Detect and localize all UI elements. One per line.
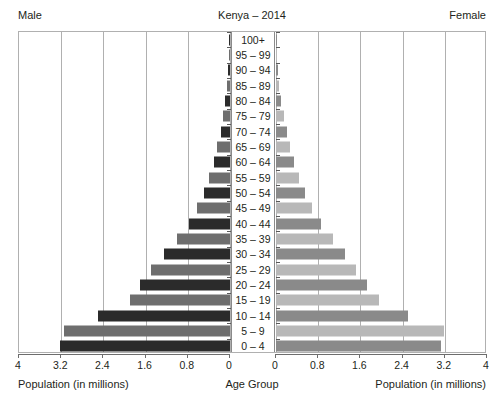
pyramid-row: 25 – 29 xyxy=(19,262,485,277)
bar-male xyxy=(140,279,230,290)
pyramid-row: 30 – 34 xyxy=(19,247,485,262)
age-group-label: 20 – 24 xyxy=(230,279,276,291)
row-tick-right xyxy=(276,185,280,186)
row-tick-right xyxy=(276,293,280,294)
pyramid-row: 90 – 94 xyxy=(19,63,485,78)
pyramid-row: 95 – 99 xyxy=(19,47,485,62)
row-tick-right xyxy=(276,32,280,33)
row-tick-right xyxy=(276,262,280,263)
row-tick-left xyxy=(227,231,231,232)
x-tick-label-left: 0.8 xyxy=(179,359,194,372)
bar-male xyxy=(223,111,230,122)
age-group-label: 90 – 94 xyxy=(230,64,276,76)
age-group-label: 40 – 44 xyxy=(230,218,276,230)
bar-female xyxy=(276,34,277,45)
row-tick-right xyxy=(276,124,280,125)
bar-male xyxy=(214,157,230,168)
pyramid-row: 0 – 4 xyxy=(19,339,485,354)
x-tick xyxy=(229,354,230,358)
age-group-label: 15 – 19 xyxy=(230,294,276,306)
chart-title: Kenya – 2014 xyxy=(0,8,504,22)
age-group-label: 60 – 64 xyxy=(230,156,276,168)
row-tick-left xyxy=(227,262,231,263)
bar-female xyxy=(276,126,287,137)
row-tick-left xyxy=(227,47,231,48)
bar-male xyxy=(217,141,230,152)
row-tick-right xyxy=(276,216,280,217)
age-group-label: 85 – 89 xyxy=(230,80,276,92)
bar-female xyxy=(276,65,278,76)
row-tick-left xyxy=(227,124,231,125)
x-tick xyxy=(444,354,445,358)
pyramid-row: 55 – 59 xyxy=(19,170,485,185)
pyramid-row: 10 – 14 xyxy=(19,308,485,323)
row-tick-left xyxy=(227,308,231,309)
pyramid-row: 40 – 44 xyxy=(19,216,485,231)
age-group-label: 95 – 99 xyxy=(230,49,276,61)
bar-male xyxy=(60,341,230,352)
row-tick-right xyxy=(276,47,280,48)
row-tick-right xyxy=(276,247,280,248)
x-tick-label-left: 2.4 xyxy=(95,359,110,372)
plot-inner: 100+95 – 9990 – 9485 – 8980 – 8475 – 797… xyxy=(19,32,485,352)
x-tick xyxy=(187,354,188,358)
bar-male xyxy=(197,203,230,214)
row-tick-left xyxy=(227,185,231,186)
x-tick xyxy=(486,354,487,358)
bar-female xyxy=(276,249,345,260)
pyramid-row: 85 – 89 xyxy=(19,78,485,93)
row-tick-right xyxy=(276,155,280,156)
row-tick-right xyxy=(276,277,280,278)
x-tick xyxy=(359,354,360,358)
row-tick-left xyxy=(227,170,231,171)
row-tick-left xyxy=(227,109,231,110)
population-pyramid-figure: Male Kenya – 2014 Female 100+95 – 9990 –… xyxy=(0,0,504,401)
x-axis-line-right xyxy=(275,354,486,355)
pyramid-row: 80 – 84 xyxy=(19,93,485,108)
bar-female xyxy=(276,157,294,168)
bar-male xyxy=(64,325,230,336)
age-group-label: 25 – 29 xyxy=(230,264,276,276)
pyramid-row: 50 – 54 xyxy=(19,185,485,200)
bar-female xyxy=(276,233,333,244)
row-tick-right xyxy=(276,63,280,64)
bar-female xyxy=(276,49,277,60)
bar-female xyxy=(276,95,281,106)
row-tick-left xyxy=(227,32,231,33)
bar-male xyxy=(98,310,230,321)
row-tick-left xyxy=(227,139,231,140)
row-tick-right xyxy=(276,139,280,140)
age-group-label: 35 – 39 xyxy=(230,233,276,245)
row-tick-right xyxy=(276,109,280,110)
x-tick-label-right: 4 xyxy=(483,359,489,372)
age-group-label: 0 – 4 xyxy=(230,340,276,352)
row-tick-left xyxy=(227,216,231,217)
pyramid-row: 15 – 19 xyxy=(19,293,485,308)
age-group-label: 75 – 79 xyxy=(230,110,276,122)
row-tick-left xyxy=(227,78,231,79)
pyramid-row: 70 – 74 xyxy=(19,124,485,139)
row-tick-right xyxy=(276,170,280,171)
age-group-label: 10 – 14 xyxy=(230,310,276,322)
age-group-label: 80 – 84 xyxy=(230,95,276,107)
x-tick-label-left: 4 xyxy=(15,359,21,372)
row-tick-left xyxy=(227,323,231,324)
x-tick-label-right: 2.4 xyxy=(394,359,409,372)
row-tick-right xyxy=(276,93,280,94)
pyramid-row: 20 – 24 xyxy=(19,277,485,292)
age-group-label: 30 – 34 xyxy=(230,248,276,260)
bar-female xyxy=(276,172,299,183)
pyramid-row: 60 – 64 xyxy=(19,155,485,170)
row-tick-right xyxy=(276,231,280,232)
row-tick-right xyxy=(276,339,280,340)
bar-male xyxy=(130,295,230,306)
age-group-label: 55 – 59 xyxy=(230,172,276,184)
x-tick xyxy=(60,354,61,358)
age-group-label: 70 – 74 xyxy=(230,126,276,138)
age-group-label: 45 – 49 xyxy=(230,202,276,214)
pyramid-row: 65 – 69 xyxy=(19,139,485,154)
pyramid-row: 45 – 49 xyxy=(19,201,485,216)
bar-male xyxy=(164,249,230,260)
row-tick-left xyxy=(227,247,231,248)
x-tick xyxy=(18,354,19,358)
